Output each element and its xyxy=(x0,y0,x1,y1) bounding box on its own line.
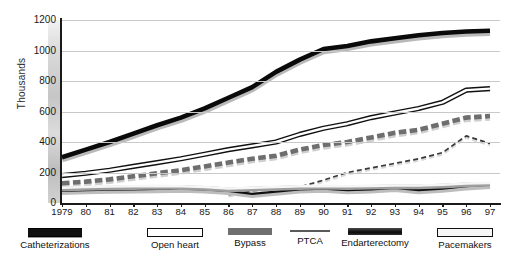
y-axis-tick-label: 200 xyxy=(22,167,56,178)
legend-item-open-heart[interactable]: Open heart xyxy=(130,228,220,250)
legend-swatch xyxy=(228,228,272,235)
x-axis-tick xyxy=(205,203,206,207)
x-axis-tick xyxy=(228,203,229,207)
legend-item-endarterectomy[interactable]: Endarterectomy xyxy=(320,228,430,248)
x-axis-tick xyxy=(419,203,420,207)
x-axis-tick xyxy=(395,203,396,207)
x-axis-tick xyxy=(157,203,158,207)
y-axis-tick-label: 800 xyxy=(22,75,56,86)
x-axis-tick xyxy=(276,203,277,207)
gridline xyxy=(60,81,500,82)
series-pacemakers xyxy=(62,183,490,190)
gridline xyxy=(60,51,500,52)
x-axis-tick xyxy=(324,203,325,207)
chart-legend: CatheterizationsOpen heartBypassPTCAEnda… xyxy=(0,228,511,256)
x-axis-tick xyxy=(252,203,253,207)
gridline xyxy=(60,173,500,174)
legend-item-bypass[interactable]: Bypass xyxy=(218,228,282,248)
x-axis-tick xyxy=(86,203,87,207)
x-axis-tick xyxy=(490,203,491,207)
gridline xyxy=(60,20,500,21)
plot-area xyxy=(60,20,500,203)
legend-swatch xyxy=(437,228,493,237)
legend-label: Endarterectomy xyxy=(320,237,430,248)
x-axis-tick xyxy=(300,203,301,207)
series-bypass xyxy=(62,116,490,185)
gridline xyxy=(60,112,500,113)
legend-item-catheterizations[interactable]: Catheterizations xyxy=(0,228,110,250)
x-axis-tick xyxy=(133,203,134,207)
x-axis-line xyxy=(60,203,501,205)
legend-label: Bypass xyxy=(218,237,282,248)
y-axis-tick-label: 600 xyxy=(22,106,56,117)
gridline xyxy=(60,142,500,143)
y-axis-tick-label: 1000 xyxy=(22,45,56,56)
x-axis-tick xyxy=(466,203,467,207)
legend-label: Open heart xyxy=(130,239,220,250)
legend-swatch xyxy=(28,228,82,237)
x-axis-tick xyxy=(181,203,182,207)
y-axis-tick-label: 400 xyxy=(22,136,56,147)
x-axis-tick-label: 97 xyxy=(474,206,506,217)
x-axis-tick xyxy=(371,203,372,207)
x-axis-tick xyxy=(110,203,111,207)
y-axis-line xyxy=(60,18,62,205)
legend-label: Catheterizations xyxy=(0,239,110,250)
y-axis-ticks: 020040060080010001200 xyxy=(16,0,56,256)
x-axis-tick xyxy=(62,203,63,207)
y-axis-tick-label: 1200 xyxy=(22,14,56,25)
legend-swatch xyxy=(147,228,203,237)
x-axis-tick xyxy=(442,203,443,207)
legend-swatch xyxy=(348,228,402,235)
legend-item-pacemakers[interactable]: Pacemakers xyxy=(421,228,509,250)
chart-figure: Thousands 020040060080010001200 19798081… xyxy=(0,0,511,256)
x-axis-tick xyxy=(347,203,348,207)
legend-label: Pacemakers xyxy=(421,239,509,250)
